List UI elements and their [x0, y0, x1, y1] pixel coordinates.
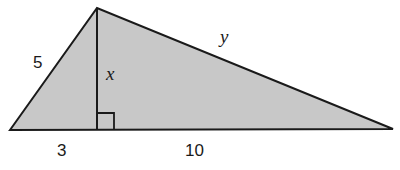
label-left-side: 5: [33, 53, 42, 72]
label-hypotenuse: y: [218, 26, 229, 47]
label-base-right: 10: [185, 141, 204, 160]
triangle-diagram: 5 x y 3 10: [0, 0, 400, 170]
label-base-left: 3: [57, 141, 66, 160]
triangle-shape: [10, 8, 393, 130]
label-altitude: x: [105, 63, 115, 84]
